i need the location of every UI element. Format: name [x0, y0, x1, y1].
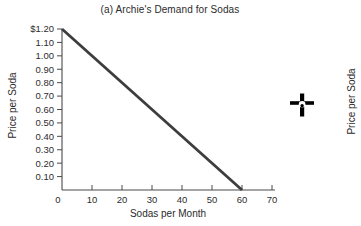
x-axis-label: Sodas per Month	[68, 208, 268, 219]
figure-panel-a: (a) Archie's Demand for Sodas Price per …	[0, 0, 361, 226]
y-tick-label: 0.40	[36, 131, 55, 142]
y-tick-label: 0.90	[36, 64, 55, 75]
x-tick-label: 70	[267, 194, 278, 205]
y-tick-label: 1.10	[36, 37, 55, 48]
x-tick-label: 30	[147, 194, 158, 205]
y-tick-label: 0.20	[36, 158, 55, 169]
x-tick-label: 0	[55, 194, 60, 205]
y-tick-label: 1.00	[36, 50, 55, 61]
y-tick-label: 0.80	[36, 77, 55, 88]
x-tick-label: 40	[177, 194, 188, 205]
y-tick-label: 0.70	[36, 90, 55, 101]
x-tick-label: 60	[237, 194, 248, 205]
crosshair-move-cursor-icon	[290, 93, 314, 117]
cursor-center-dot	[300, 104, 303, 107]
y-tick-label: 0.50	[36, 117, 55, 128]
x-tick-label: 20	[117, 194, 128, 205]
x-tick-label: 10	[87, 194, 98, 205]
demand-curve	[62, 29, 242, 190]
y-tick-label: $1.20	[30, 23, 54, 34]
y-tick-label: 0.10	[36, 171, 55, 182]
y-tick-label: 0.60	[36, 104, 55, 115]
x-tick-label: 50	[207, 194, 218, 205]
adjacent-panel-y-axis-label: Price per Soda	[346, 52, 357, 152]
y-tick-label: 0.30	[36, 144, 55, 155]
